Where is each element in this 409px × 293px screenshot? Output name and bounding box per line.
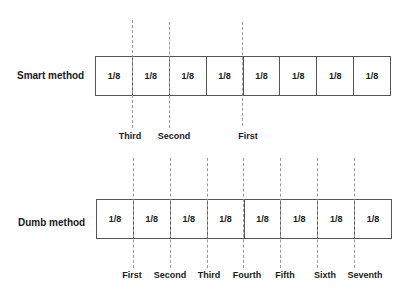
fraction-cell: 1/8 [171, 200, 208, 238]
cut-line [169, 22, 170, 128]
fraction-cell: 1/8 [281, 200, 318, 238]
fraction-cell: 1/8 [355, 200, 391, 238]
cut-line [133, 158, 134, 268]
cut-line [243, 158, 244, 268]
fraction-cell: 1/8 [208, 200, 245, 238]
cut-line [132, 20, 133, 128]
fraction-cell: 1/8 [317, 57, 354, 95]
cut-label: Seventh [347, 270, 382, 280]
cut-line [170, 158, 171, 268]
fraction-cell: 1/8 [134, 200, 171, 238]
cut-label: First [122, 270, 142, 280]
fraction-cell: 1/8 [318, 200, 355, 238]
fraction-cell: 1/8 [97, 200, 134, 238]
fraction-cell: 1/8 [244, 57, 281, 95]
fraction-cell: 1/8 [280, 57, 317, 95]
cut-line [242, 22, 243, 126]
fraction-cell: 1/8 [96, 57, 133, 95]
fraction-cell: 1/8 [170, 57, 207, 95]
dumb-method-bar: 1/8 1/8 1/8 1/8 1/8 1/8 1/8 1/8 [96, 199, 392, 239]
cut-label: Fourth [233, 270, 262, 280]
dumb-method-label: Dumb method [18, 217, 85, 228]
cut-label: Fifth [275, 270, 295, 280]
cut-label: Sixth [314, 270, 336, 280]
smart-method-bar: 1/8 1/8 1/8 1/8 1/8 1/8 1/8 1/8 [95, 56, 391, 96]
cut-line [317, 158, 318, 268]
cut-label: Second [158, 131, 191, 141]
cut-label: Third [119, 131, 142, 141]
fraction-cell: 1/8 [354, 57, 390, 95]
cut-label: First [238, 131, 258, 141]
smart-method-label: Smart method [17, 70, 84, 81]
cut-label: Third [198, 270, 221, 280]
cut-label: Second [154, 270, 187, 280]
fraction-cell: 1/8 [133, 57, 170, 95]
fraction-cell: 1/8 [245, 200, 282, 238]
cut-line [354, 158, 355, 268]
fraction-cell: 1/8 [207, 57, 244, 95]
cut-line [280, 158, 281, 268]
cut-line [207, 158, 208, 268]
